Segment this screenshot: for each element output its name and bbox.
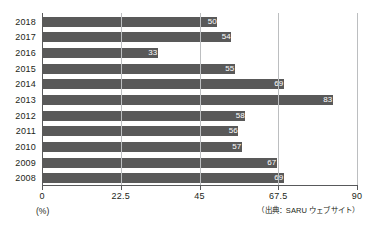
bar-value-label: 58 [42,111,248,121]
bar-value-label: 56 [42,126,241,136]
y-axis-category-label: 2017 [15,32,36,42]
bar-value-label: 54 [42,32,234,42]
x-axis-tick [42,186,43,190]
y-axis-category-label: 2016 [15,48,36,58]
bar-value-label: 57 [42,142,245,152]
x-axis-tick-label: 90 [352,191,362,202]
gridline [121,13,122,185]
gridline [200,13,201,185]
y-axis-category-label: 2012 [15,111,36,121]
bar-value-label: 83 [42,95,336,105]
bar-value-label: 33 [42,48,161,58]
y-axis-category-label: 2015 [15,64,36,74]
x-axis-unit-label: (%) [36,206,49,216]
y-axis-category-label: 2011 [16,126,36,136]
x-axis-tick [278,186,279,190]
bar-value-label: 67 [42,158,280,168]
y-axis-category-label: 2008 [15,173,36,183]
x-axis-tick [200,186,201,190]
bar-value-label: 55 [42,64,238,74]
gridline [357,13,358,185]
y-axis-category-label: 2010 [15,142,36,152]
x-axis-tick [357,186,358,190]
x-axis-tick-label: 22.5 [112,191,130,202]
x-axis-tick [121,186,122,190]
y-axis-category-label: 2018 [15,17,36,27]
bar-value-label: 69 [42,79,287,89]
bar-value-label: 50 [42,17,220,27]
gridline [278,13,279,185]
y-axis-category-label: 2013 [15,95,36,105]
bar-value-label: 69 [42,173,287,183]
x-axis-tick-label: 0 [39,191,44,202]
y-axis-category-label: 2014 [15,79,36,89]
y-axis-category-label: 2009 [15,158,36,168]
x-axis-tick-label: 45 [194,191,204,202]
source-note: （出典：SARU ウェブサイト） [257,206,359,216]
x-axis-tick-label: 67.5 [269,191,287,202]
bar-chart: 2018502017542016332015552014692013832012… [0,0,377,226]
